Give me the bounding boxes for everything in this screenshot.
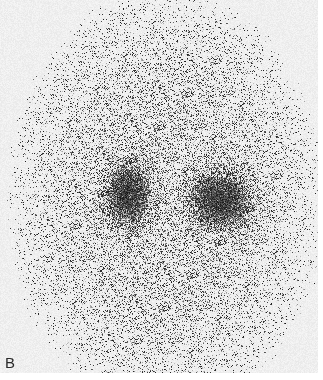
panel-label: B	[5, 355, 15, 370]
scintigraphy-image	[0, 0, 318, 373]
scintigraphy-figure: B	[0, 0, 323, 380]
right-margin	[318, 0, 323, 380]
bottom-margin	[0, 373, 323, 380]
